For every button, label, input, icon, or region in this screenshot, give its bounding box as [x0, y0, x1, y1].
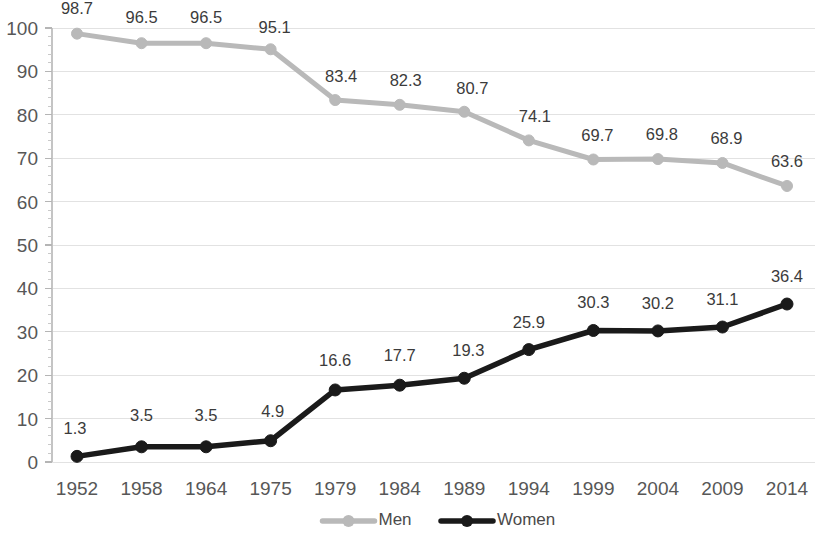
data-point [588, 154, 599, 165]
data-point [781, 298, 793, 310]
data-point [717, 157, 728, 168]
data-point [265, 435, 277, 447]
data-point [458, 372, 470, 384]
y-tick-label: 10 [17, 409, 38, 430]
data-point [716, 321, 728, 333]
x-tick-label: 1984 [379, 478, 422, 499]
data-label: 96.5 [125, 8, 157, 26]
data-point [652, 154, 663, 165]
data-label: 36.4 [771, 267, 803, 285]
legend-label-men: Men [379, 510, 412, 529]
data-label: 98.7 [61, 0, 93, 17]
data-label: 25.9 [513, 313, 545, 331]
line-chart: 0102030405060708090100 19521958196419751… [0, 0, 815, 533]
data-label: 1.3 [64, 419, 87, 437]
data-point [136, 38, 147, 49]
data-label: 30.2 [642, 294, 674, 312]
data-label: 17.7 [384, 346, 416, 364]
data-label: 31.1 [706, 290, 738, 308]
y-tick-label: 0 [27, 452, 38, 473]
x-tick-label: 2004 [637, 478, 680, 499]
data-label: 69.8 [646, 125, 678, 143]
y-tick-label: 20 [17, 365, 38, 386]
data-label: 96.5 [190, 8, 222, 26]
x-tick-label: 1975 [249, 478, 291, 499]
data-point [652, 325, 664, 337]
data-label: 16.6 [319, 351, 351, 369]
data-point [523, 135, 534, 146]
data-label: 19.3 [452, 341, 484, 359]
x-tick-label: 1958 [120, 478, 162, 499]
data-label: 69.7 [581, 126, 613, 144]
data-point [394, 379, 406, 391]
data-point [200, 441, 212, 453]
y-tick-label: 80 [17, 105, 38, 126]
data-point [201, 38, 212, 49]
legend-label-women: Women [497, 510, 555, 529]
y-tick-label: 90 [17, 61, 38, 82]
data-point [523, 344, 535, 356]
data-label: 83.4 [325, 67, 357, 85]
data-label: 3.5 [195, 406, 218, 424]
y-tick-label: 30 [17, 322, 38, 343]
y-tick-label: 100 [6, 18, 38, 39]
x-tick-label: 1964 [185, 478, 228, 499]
data-point [329, 384, 341, 396]
data-point [72, 28, 83, 39]
y-tick-label: 70 [17, 148, 38, 169]
data-point [394, 99, 405, 110]
data-point [136, 441, 148, 453]
x-tick-label: 1994 [508, 478, 551, 499]
legend-swatch-marker-men [343, 515, 355, 527]
chart-canvas: 0102030405060708090100 19521958196419751… [0, 0, 815, 533]
x-tick-label: 1979 [314, 478, 356, 499]
y-tick-label: 40 [17, 278, 38, 299]
data-point [782, 180, 793, 191]
x-tick-label: 2014 [766, 478, 809, 499]
legend-swatch-marker-women [461, 515, 473, 527]
data-label: 3.5 [130, 406, 153, 424]
data-label: 80.7 [456, 79, 488, 97]
x-tick-label: 1989 [443, 478, 485, 499]
y-tick-label: 60 [17, 192, 38, 213]
data-label: 63.6 [771, 152, 803, 170]
y-tick-label: 50 [17, 235, 38, 256]
data-point [587, 324, 599, 336]
data-label: 74.1 [519, 107, 551, 125]
x-tick-label: 1952 [56, 478, 98, 499]
data-label: 4.9 [261, 402, 284, 420]
x-tick-label: 1999 [572, 478, 614, 499]
x-tick-label: 2009 [701, 478, 743, 499]
data-label: 68.9 [710, 129, 742, 147]
data-point [265, 44, 276, 55]
data-label: 82.3 [390, 71, 422, 89]
data-point [459, 106, 470, 117]
data-label: 30.3 [577, 293, 609, 311]
data-point [330, 95, 341, 106]
data-point [71, 450, 83, 462]
data-label: 95.1 [259, 18, 291, 36]
